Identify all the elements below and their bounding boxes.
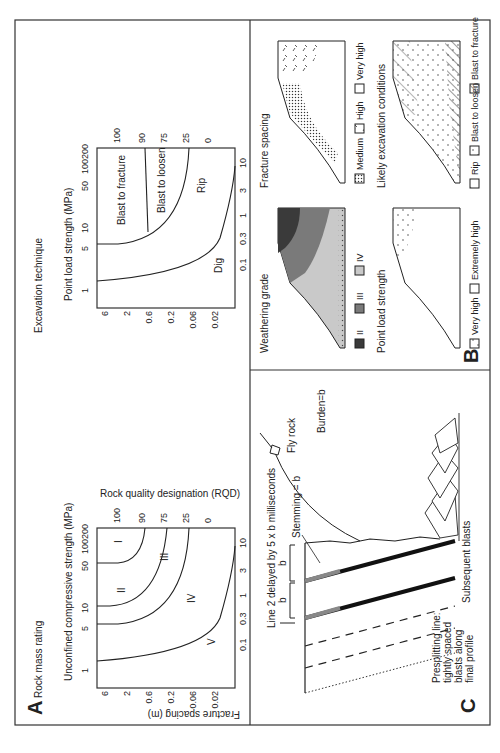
svg-text:100: 100 — [112, 508, 122, 523]
curve-i-ii — [97, 528, 145, 563]
panel-c-label: C — [457, 699, 479, 713]
figure-canvas: A Rock mass rating Unconfined compressiv… — [0, 0, 500, 753]
left-axis-label: Fracture spacing (m) — [148, 709, 240, 720]
svg-text:IV: IV — [355, 253, 365, 262]
panel-c: C b b Line 2 delayed by 5 — [260, 389, 479, 713]
legend-swatch-ii — [355, 339, 364, 348]
svg-text:Point load strength: Point load strength — [376, 270, 387, 353]
svg-text:75: 75 — [159, 513, 169, 523]
svg-text:I: I — [113, 540, 124, 543]
svg-text:2: 2 — [122, 691, 132, 696]
svg-text:1: 1 — [238, 213, 248, 218]
bottom-axis-ticks: 0.1 0.3 1 3 10 — [238, 538, 248, 651]
svg-text:tightly spaced: tightly spaced — [442, 622, 453, 683]
svg-text:III: III — [355, 292, 365, 300]
fly-rock-label: Fly rock — [286, 417, 297, 453]
svg-text:Weathering grade: Weathering grade — [259, 273, 270, 353]
svg-text:1: 1 — [80, 668, 90, 673]
map-likely-excavation: Likely excavation conditions Rip Blast t… — [376, 17, 480, 188]
panel-b: B Weathering grade II III IV Fracture sp… — [259, 17, 482, 363]
svg-text:10: 10 — [238, 538, 248, 548]
svg-text:IV: IV — [186, 593, 197, 603]
figure-stage: A Rock mass rating Unconfined compressiv… — [0, 0, 500, 753]
svg-text:Rip: Rip — [470, 161, 480, 175]
svg-text:6: 6 — [100, 311, 110, 316]
svg-text:75: 75 — [159, 133, 169, 143]
curve-ii-iii — [97, 528, 167, 606]
svg-text:blasts along: blasts along — [453, 630, 464, 683]
top-axis-ticks: 1 5 10 50 100 200 — [80, 524, 90, 673]
svg-text:0.06: 0.06 — [188, 311, 198, 329]
svg-text:Extremely high: Extremely high — [470, 220, 480, 280]
legend-swatch-extremely-high — [470, 284, 479, 293]
map-weathering-grade: Weathering grade II III IV — [259, 208, 365, 353]
svg-text:b: b — [277, 560, 288, 566]
panel-b-label: B — [460, 349, 482, 363]
muck-pile — [425, 413, 459, 541]
legend-swatch-rip — [470, 179, 479, 188]
svg-text:6: 6 — [100, 691, 110, 696]
chart-title: Rock mass rating — [33, 621, 44, 698]
legend-swatch-iii — [355, 304, 364, 313]
left-axis-ticks: 6 2 0.6 0.2 0.06 0.02 — [100, 691, 220, 709]
svg-text:100: 100 — [112, 128, 122, 143]
svg-text:100: 100 — [80, 539, 90, 554]
svg-text:0.6: 0.6 — [144, 691, 154, 704]
zone-labels: Blast to fracture Blast to loosen Rip Di… — [116, 147, 224, 273]
rock-mass-rating-chart: Rock mass rating Unconfined compressive … — [33, 488, 248, 720]
svg-text:Very high: Very high — [355, 42, 365, 80]
zone-dig: Dig — [213, 258, 224, 273]
top-axis-label: Point load strength (MPa) — [63, 188, 74, 301]
legend-swatch-blast-fracture — [470, 84, 479, 93]
zone-blast-to-loosen: Blast to loosen — [156, 147, 167, 213]
svg-text:90: 90 — [137, 133, 147, 143]
fly-rock-icon — [270, 445, 280, 455]
map-point-load-strength: Point load strength Very high Extremely … — [376, 208, 480, 353]
top-axis-label: Unconfined compressive strength (MPa) — [63, 503, 74, 681]
svg-text:Very high: Very high — [470, 297, 480, 335]
svg-text:0.6: 0.6 — [144, 311, 154, 324]
svg-text:0: 0 — [203, 138, 213, 143]
svg-text:90: 90 — [137, 513, 147, 523]
zone-rip: Rip — [196, 178, 207, 193]
svg-text:3: 3 — [238, 568, 248, 573]
svg-text:0.06: 0.06 — [188, 691, 198, 709]
svg-text:0.1: 0.1 — [238, 638, 248, 651]
zone-labels: I II III IV V — [113, 540, 217, 645]
svg-text:V: V — [206, 638, 217, 645]
svg-text:0.3: 0.3 — [238, 612, 248, 625]
svg-text:1: 1 — [238, 593, 248, 598]
svg-text:200: 200 — [80, 524, 90, 539]
svg-text:100: 100 — [80, 159, 90, 174]
svg-text:200: 200 — [80, 144, 90, 159]
right-axis-label: Rock quality designation (RQD) — [100, 488, 240, 499]
fly-rock-path — [275, 453, 360, 541]
legend-swatch-very-high — [355, 84, 364, 93]
svg-text:1: 1 — [80, 288, 90, 293]
svg-text:High: High — [355, 101, 365, 120]
burden-label: Burden=b — [316, 389, 327, 433]
legend-swatch-medium — [355, 174, 364, 183]
svg-text:5: 5 — [80, 626, 90, 631]
svg-text:10: 10 — [238, 158, 248, 168]
legend-swatch-very-high — [470, 339, 479, 348]
svg-text:Blast to fracture: Blast to fracture — [470, 17, 480, 80]
svg-text:5: 5 — [80, 246, 90, 251]
curve-fracture-loosen — [145, 148, 148, 232]
top-axis-ticks: 1 5 10 50 100 200 — [80, 144, 90, 293]
svg-text:Medium: Medium — [355, 138, 365, 170]
svg-text:Presplitting line:: Presplitting line: — [431, 612, 442, 683]
svg-text:0: 0 — [203, 518, 213, 523]
svg-text:2: 2 — [122, 311, 132, 316]
svg-text:Fracture spacing: Fracture spacing — [259, 114, 270, 188]
svg-text:50: 50 — [80, 181, 90, 191]
svg-text:10: 10 — [80, 603, 90, 613]
legend-swatch-high — [355, 124, 364, 133]
legend-swatch-blast-loosen — [470, 146, 479, 155]
curve-iii-iv — [97, 528, 189, 624]
svg-text:0.2: 0.2 — [166, 311, 176, 324]
right-axis-ticks: 100 90 75 25 0 — [112, 128, 213, 143]
svg-text:3: 3 — [238, 188, 248, 193]
svg-text:25: 25 — [181, 513, 191, 523]
presplit-label: Presplitting line: tightly spaced blasts… — [431, 612, 475, 683]
